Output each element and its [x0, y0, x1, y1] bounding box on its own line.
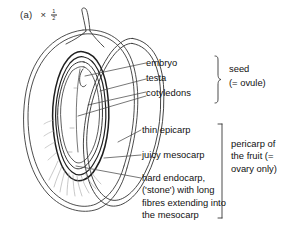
label-thin-epicarp: thin epicarp [142, 124, 190, 136]
label-hard-endocarp: hard endocarp, ('stone') with long fibre… [142, 172, 238, 222]
fruit-outer-outline [24, 30, 127, 211]
stalk-base-left [66, 31, 86, 44]
label-cotyledons: cotyledons [146, 87, 191, 99]
group-label-seed-synonym: (= ovule) [229, 77, 266, 89]
stalk-base-right [90, 31, 104, 47]
fruit-stalk [82, 8, 90, 31]
leader-line-thin-epicarp [118, 130, 141, 142]
fruit-outer-outline-right [83, 30, 138, 168]
leader-line-juicy-mesocarp [104, 155, 141, 158]
label-testa: testa [146, 72, 166, 84]
group-label-pericarp: pericarp of the fruit (= ovary only) [231, 138, 283, 175]
leader-lines [76, 63, 146, 178]
seed-group-brace [215, 56, 221, 103]
label-embryo: embryo [146, 57, 177, 69]
embryo-mark [80, 69, 86, 87]
group-label-seed: seed [229, 63, 249, 75]
label-juicy-mesocarp: juicy mesocarp [142, 149, 205, 161]
leader-line-embryo [85, 63, 146, 76]
botanical-diagram-figure: (a) × 1 2 [0, 0, 286, 245]
